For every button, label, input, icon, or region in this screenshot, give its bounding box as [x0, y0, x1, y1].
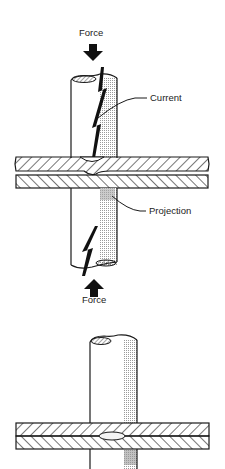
projection-label: Projection: [149, 205, 191, 216]
current-label: Current: [150, 92, 182, 103]
weld-nugget: [99, 432, 125, 440]
lower-plate: [16, 175, 208, 188]
force-label-top: Force: [79, 27, 103, 38]
current-bolt-icon-bottom: [82, 226, 98, 276]
force-arrow-down-icon: [83, 44, 103, 61]
upper-plate: [15, 157, 209, 175]
projection-welding-diagram: [0, 0, 225, 469]
force-label-bottom: Force: [82, 294, 106, 305]
